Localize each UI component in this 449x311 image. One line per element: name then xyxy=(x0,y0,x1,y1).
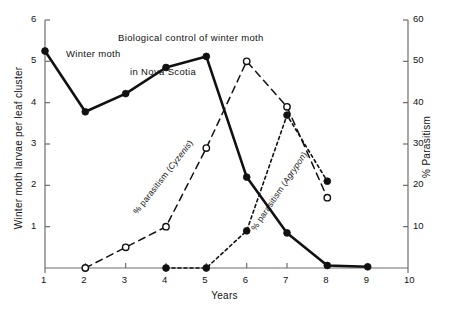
data-point-marker xyxy=(82,108,89,115)
y-axis-label-left: Winter moth larvae per leaf cluster xyxy=(13,28,25,268)
y-tick-label-right: 50 xyxy=(413,54,424,65)
y-tick-label-right: 60 xyxy=(413,13,424,24)
x-tick-label: 4 xyxy=(162,274,167,285)
data-point-marker xyxy=(42,48,49,55)
data-point-marker xyxy=(284,230,291,237)
y-tick-label-left: 6 xyxy=(31,13,36,24)
data-point-marker xyxy=(82,265,88,271)
data-point-marker xyxy=(364,263,371,270)
y-tick-label-right: 40 xyxy=(413,96,424,107)
x-tick-label: 7 xyxy=(283,274,288,285)
data-point-marker xyxy=(163,224,169,230)
x-tick-label: 3 xyxy=(122,274,127,285)
data-point-marker xyxy=(284,112,291,119)
chart-title-line-1: Biological control of winter moth xyxy=(118,32,264,43)
x-axis-label: Years xyxy=(0,290,449,302)
data-point-marker xyxy=(243,174,250,181)
chart-figure: Biological control of winter moth in Nov… xyxy=(0,0,449,311)
x-tick-label: 10 xyxy=(404,274,415,285)
x-tick-label: 1 xyxy=(41,274,46,285)
x-tick-label: 9 xyxy=(364,274,369,285)
data-point-marker xyxy=(163,265,170,272)
y-tick-label-right: 20 xyxy=(413,178,424,189)
x-tick-label: 5 xyxy=(202,274,207,285)
x-tick-label: 8 xyxy=(323,274,328,285)
x-tick-label: 2 xyxy=(81,274,86,285)
data-point-marker xyxy=(324,178,331,185)
chart-title: Biological control of winter moth in Nov… xyxy=(118,10,264,100)
data-point-marker xyxy=(324,262,331,269)
chart-title-line-2: in Nova Scotia xyxy=(130,66,264,77)
data-point-marker xyxy=(284,104,290,110)
data-point-marker xyxy=(123,244,129,250)
y-tick-label-right: 10 xyxy=(413,220,424,231)
x-tick-label: 6 xyxy=(243,274,248,285)
y-tick-label-left: 1 xyxy=(31,220,36,231)
y-tick-label-left: 2 xyxy=(31,178,36,189)
y-tick-label-left: 5 xyxy=(31,54,36,65)
y-tick-label-right: 30 xyxy=(413,137,424,148)
annotation-winter-moth: Winter moth xyxy=(66,48,121,59)
data-point-marker xyxy=(203,265,210,272)
y-tick-label-left: 3 xyxy=(31,137,36,148)
data-point-marker xyxy=(324,195,330,201)
y-tick-label-left: 4 xyxy=(31,96,36,107)
data-point-marker xyxy=(203,145,209,151)
